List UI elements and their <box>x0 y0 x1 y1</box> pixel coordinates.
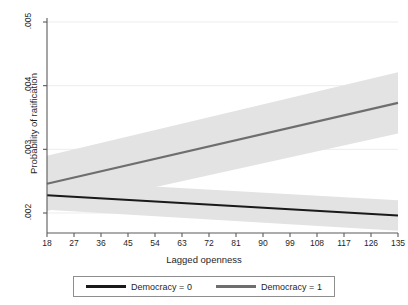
legend-label-0: Democracy = 0 <box>131 282 192 292</box>
legend-item-democracy-0[interactable]: Democracy = 0 <box>86 282 192 292</box>
x-tick-label: 126 <box>356 238 386 248</box>
x-tick-label: 36 <box>86 238 116 248</box>
legend-label-1: Democracy = 1 <box>261 282 322 292</box>
y-tick-label: .004 <box>23 70 33 100</box>
x-axis-title: Lagged openness <box>0 254 408 265</box>
confidence-band-1 <box>47 72 398 211</box>
y-tick-label: .005 <box>23 6 33 36</box>
x-tick-label: 63 <box>167 238 197 248</box>
legend-line-swatch-0 <box>86 285 126 287</box>
x-tick-label: 72 <box>194 238 224 248</box>
x-tick-label: 108 <box>302 238 332 248</box>
x-tick-label: 135 <box>383 238 408 248</box>
x-tick-label: 18 <box>32 238 62 248</box>
x-tick-label: 27 <box>59 238 89 248</box>
x-tick-label: 45 <box>113 238 143 248</box>
y-tick-label: .002 <box>23 197 33 227</box>
x-tick-label: 81 <box>221 238 251 248</box>
y-tick-label: .003 <box>23 133 33 163</box>
chart-legend: Democracy = 0 Democracy = 1 <box>73 276 335 297</box>
legend-line-swatch-1 <box>216 285 256 287</box>
legend-item-democracy-1[interactable]: Democracy = 1 <box>216 282 322 292</box>
x-tick-label: 99 <box>275 238 305 248</box>
x-tick-label: 54 <box>140 238 170 248</box>
x-tick-label: 117 <box>329 238 359 248</box>
x-tick-label: 90 <box>248 238 278 248</box>
chart-figure: Probability of ratification .002.003.004… <box>0 0 408 305</box>
